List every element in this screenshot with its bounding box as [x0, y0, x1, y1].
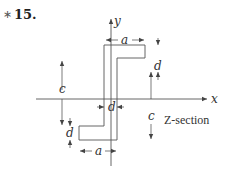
x-axis-label: x — [211, 92, 218, 106]
dim-c-left-label: c — [59, 82, 66, 96]
z-section-outline — [79, 45, 145, 140]
dim-c-right-label: c — [148, 109, 155, 123]
z-section-diagram: ∗ 15. x y a d c Z-section c d d a — [0, 0, 226, 172]
starred-marker: ∗ — [3, 8, 12, 21]
y-axis-label: y — [113, 14, 121, 28]
dim-d-top-label: d — [154, 59, 162, 73]
problem-number: 15. — [14, 7, 37, 22]
figure-caption: Z-section — [164, 113, 209, 127]
dim-d-web-label: d — [108, 100, 116, 114]
dim-a-top-label: a — [121, 33, 128, 47]
dim-a-bottom-label: a — [95, 144, 102, 158]
dim-d-bottom-label: d — [66, 126, 74, 140]
